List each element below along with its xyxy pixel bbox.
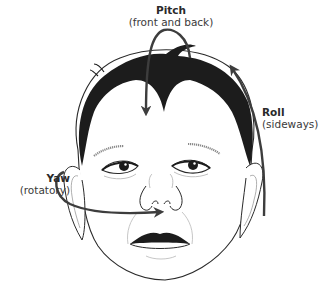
pitch-title: Pitch <box>20 4 322 16</box>
yaw-subtitle: (rotatory) <box>2 184 70 196</box>
roll-subtitle: (sideways) <box>262 118 318 130</box>
yaw-title: Yaw <box>2 172 70 184</box>
roll-label: Roll (sideways) <box>262 106 318 130</box>
head-rotation-diagram: Pitch (front and back) Roll (sideways) Y… <box>0 0 322 294</box>
pitch-subtitle: (front and back) <box>20 16 322 28</box>
roll-title: Roll <box>262 106 318 118</box>
head-illustration <box>0 0 322 294</box>
yaw-label: Yaw (rotatory) <box>2 172 70 196</box>
pitch-label: Pitch (front and back) <box>0 4 322 28</box>
